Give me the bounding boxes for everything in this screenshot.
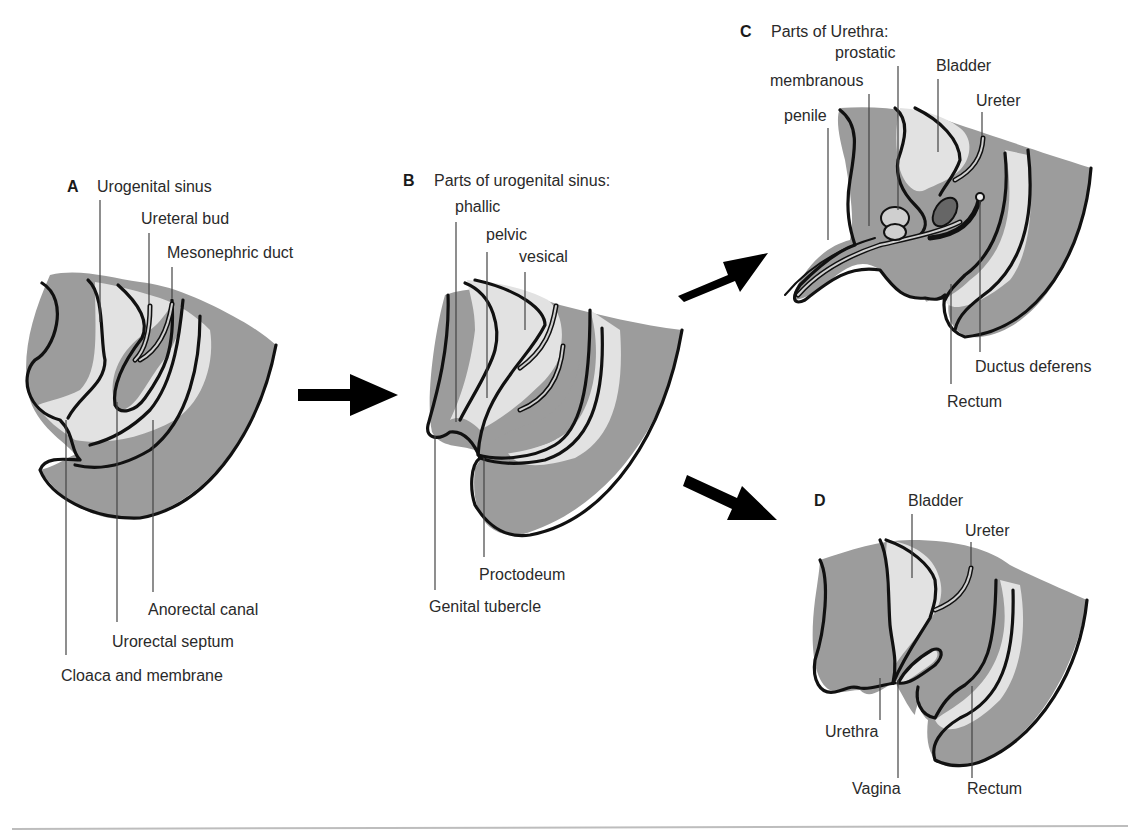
label-pelvic: pelvic (486, 226, 527, 243)
label-prostatic: prostatic (835, 44, 895, 61)
label-ureter-c: Ureter (976, 92, 1021, 109)
label-anorectal-canal: Anorectal canal (148, 601, 258, 618)
label-phallic: phallic (455, 198, 500, 215)
label-bladder-d: Bladder (908, 492, 964, 509)
label-urogenital-sinus: Urogenital sinus (97, 178, 212, 195)
panel-a: A Urogenital sinus Ureteral bud Mesoneph… (26, 178, 294, 684)
label-rectum-c: Rectum (947, 393, 1002, 410)
label-cloaca-membrane: Cloaca and membrane (61, 667, 223, 684)
label-ureteral-bud: Ureteral bud (141, 210, 229, 227)
label-ureter-d: Ureter (965, 522, 1010, 539)
label-vesical: vesical (519, 248, 568, 265)
label-proctodeum: Proctodeum (479, 566, 565, 583)
panel-c-title: Parts of Urethra: (771, 23, 888, 40)
urogenital-development-diagram: A Urogenital sinus Ureteral bud Mesoneph… (0, 0, 1128, 839)
panel-b-title: Parts of urogenital sinus: (434, 172, 610, 189)
label-ductus-deferens: Ductus deferens (975, 358, 1092, 375)
arrow-down-right-icon (683, 475, 777, 520)
label-genital-tubercle: Genital tubercle (429, 598, 541, 615)
panel-c-letter: C (740, 23, 752, 40)
panel-d: D Bladder Ureter Urethra Vagina Rectum (813, 492, 1087, 797)
label-urethra-d: Urethra (825, 723, 878, 740)
panel-b: B Parts of urogenital sinus: phallic pel… (403, 172, 682, 615)
label-mesonephric-duct: Mesonephric duct (167, 244, 294, 261)
label-bladder-c: Bladder (936, 57, 992, 74)
label-penile: penile (784, 107, 827, 124)
arrow-right-icon (298, 374, 398, 416)
label-membranous: membranous (770, 72, 863, 89)
panel-c: C Parts of Urethra: prostatic membranous… (740, 23, 1092, 410)
panel-d-letter: D (814, 492, 826, 509)
label-rectum-d: Rectum (967, 780, 1022, 797)
label-urorectal-septum: Urorectal septum (112, 633, 234, 650)
panel-a-letter: A (67, 178, 79, 195)
bottom-divider (12, 826, 1128, 829)
arrow-up-right-icon (678, 253, 768, 302)
panel-b-letter: B (403, 172, 415, 189)
label-vagina: Vagina (852, 780, 901, 797)
